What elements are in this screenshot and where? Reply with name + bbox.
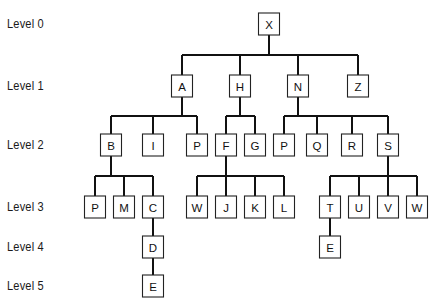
tree-node-w2: W bbox=[407, 196, 428, 218]
tree-node-q: Q bbox=[307, 134, 328, 156]
tree-node-v: V bbox=[378, 196, 399, 218]
tree-node-d: D bbox=[143, 236, 164, 258]
node-label: B bbox=[107, 140, 115, 152]
node-label: H bbox=[236, 81, 244, 93]
tree-node-l: L bbox=[274, 196, 295, 218]
node-label: S bbox=[384, 140, 392, 152]
node-label: E bbox=[149, 281, 157, 293]
node-label: P bbox=[91, 202, 99, 214]
tree-node-m: M bbox=[114, 196, 135, 218]
tree-node-k: K bbox=[245, 196, 266, 218]
node-label: Z bbox=[354, 81, 361, 93]
tree-node-f: F bbox=[216, 134, 237, 156]
tree-node-g: G bbox=[245, 134, 266, 156]
tree-node-e1: E bbox=[320, 236, 341, 258]
node-label: U bbox=[355, 202, 363, 214]
node-label: X bbox=[265, 19, 273, 31]
tree-node-i: I bbox=[143, 134, 164, 156]
node-label: N bbox=[294, 81, 302, 93]
node-label: D bbox=[149, 242, 157, 254]
node-label: P bbox=[280, 140, 288, 152]
tree-node-t: T bbox=[320, 196, 341, 218]
node-label: A bbox=[178, 81, 186, 93]
node-label: W bbox=[412, 202, 423, 214]
node-label: V bbox=[384, 202, 392, 214]
node-label: R bbox=[348, 140, 356, 152]
tree-node-r: R bbox=[342, 134, 363, 156]
node-label: K bbox=[251, 202, 259, 214]
tree-node-z: Z bbox=[348, 75, 369, 97]
node-label: G bbox=[251, 140, 260, 152]
node-label: T bbox=[326, 202, 333, 214]
node-label: W bbox=[192, 202, 203, 214]
tree-node-u: U bbox=[349, 196, 370, 218]
tree-node-a: A bbox=[172, 75, 193, 97]
node-label: I bbox=[151, 140, 154, 152]
tree-node-n: N bbox=[288, 75, 309, 97]
tree-node-j: J bbox=[216, 196, 237, 218]
node-label: Q bbox=[313, 140, 322, 152]
node-label: P bbox=[193, 140, 201, 152]
node-label: C bbox=[149, 202, 157, 214]
node-label: J bbox=[223, 202, 229, 214]
tree-node-p1: P bbox=[187, 134, 208, 156]
tree-node-x: X bbox=[259, 13, 280, 35]
node-label: M bbox=[119, 202, 129, 214]
node-label: L bbox=[281, 202, 288, 214]
node-label: E bbox=[326, 242, 334, 254]
tree-node-b: B bbox=[101, 134, 122, 156]
tree-node-p3: P bbox=[85, 196, 106, 218]
node-label: F bbox=[222, 140, 229, 152]
tree-diagram: XAHNZBIPFGPQRSPMCWJKLTUVWDEE bbox=[0, 0, 436, 305]
tree-node-w1: W bbox=[187, 196, 208, 218]
tree-node-e2: E bbox=[143, 275, 164, 297]
tree-node-s: S bbox=[378, 134, 399, 156]
tree-node-p2: P bbox=[274, 134, 295, 156]
tree-node-h: H bbox=[230, 75, 251, 97]
tree-node-c: C bbox=[143, 196, 164, 218]
